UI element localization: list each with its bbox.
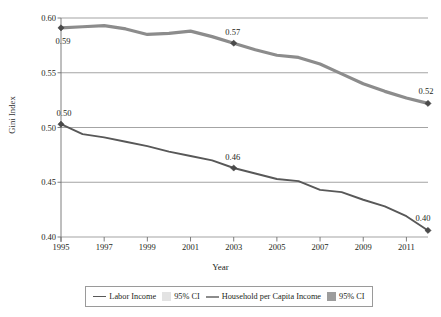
data-point-marker	[231, 165, 237, 171]
legend-label: 95% CI	[339, 292, 365, 301]
legend-color-swatch	[162, 292, 171, 301]
data-point-marker	[58, 25, 64, 31]
series-line	[61, 26, 428, 104]
data-point-marker	[58, 121, 64, 127]
legend-label: Labor Income	[109, 292, 156, 301]
legend-label: Household per Capita Income	[222, 292, 321, 301]
legend-item[interactable]: Household per Capita Income	[206, 292, 321, 301]
legend-line-swatch	[93, 296, 106, 297]
series-line	[61, 124, 428, 230]
plot-area	[0, 0, 441, 317]
chart-legend: Labor Income95% CIHousehold per Capita I…	[85, 286, 373, 307]
gini-index-line-chart: Gini Index Year 0.600.550.500.450.40 199…	[0, 0, 441, 317]
legend-item[interactable]: 95% CI	[327, 292, 365, 301]
legend-item[interactable]: 95% CI	[162, 292, 200, 301]
legend-color-swatch	[327, 292, 336, 301]
legend-label: 95% CI	[174, 292, 200, 301]
legend-line-swatch	[206, 296, 219, 298]
legend-item[interactable]: Labor Income	[93, 292, 156, 301]
